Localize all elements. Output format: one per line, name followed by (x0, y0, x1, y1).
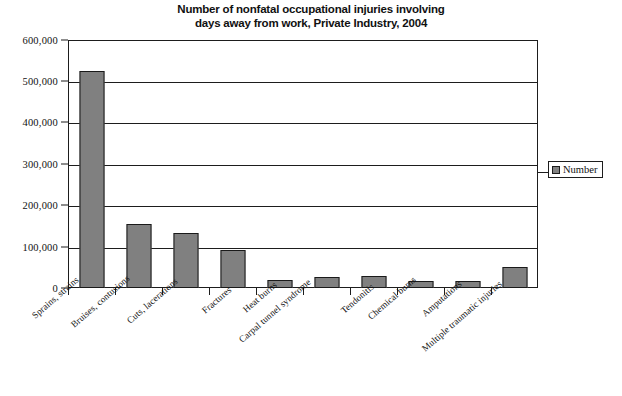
x-axis-labels: Sprains, strains Bruises, contusions Cut… (0, 0, 622, 396)
legend-connector-line (538, 172, 548, 173)
x-axis-label-fractures: Fractures (200, 285, 233, 316)
x-axis-label-cuts-lacerations: Cuts, lacerations (125, 276, 180, 325)
x-axis-label-chemical-burns: Chemical burns (366, 275, 418, 322)
legend-swatch-icon (552, 166, 560, 174)
chart-screenshot: Number of nonfatal occupational injuries… (0, 0, 622, 396)
legend-entry-label: Number (563, 164, 597, 175)
chart-legend[interactable]: Number (548, 161, 603, 178)
x-axis-label-multiple-traumatic-injuries: Multiple traumatic injuries (420, 279, 504, 354)
x-axis-label-sprains-strains: Sprains, strains (30, 275, 81, 321)
footer-caption (8, 388, 614, 396)
